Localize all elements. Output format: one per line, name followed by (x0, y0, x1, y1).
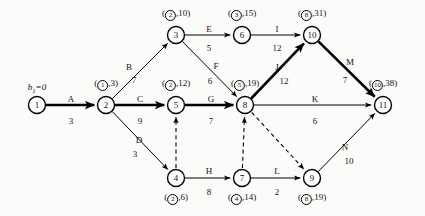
edge-label-C: C (137, 95, 143, 104)
node-tag-5: (2,12) (162, 79, 190, 91)
node-11[interactable]: 11 (375, 97, 392, 114)
node-number-5: 5 (174, 100, 179, 110)
edge-label-K: K (312, 95, 319, 104)
node-number-4: 4 (174, 173, 179, 183)
edge-label-J: J (275, 63, 279, 72)
edge-label-I: I (276, 25, 279, 34)
network-diagram-canvas: 1234567891011 b1=0 A3B7C9D3E5F6G7H8I12J1… (0, 0, 425, 216)
node-tag-9: (8,19) (298, 193, 326, 205)
node-tag-4: (2,6) (164, 193, 188, 205)
edge-label-E: E (206, 25, 212, 34)
network-graph-svg: 1234567891011 (0, 0, 425, 216)
edge-label-A: A (68, 95, 75, 104)
source-node-label: b1=0 (28, 83, 46, 94)
node-7[interactable]: 7 (234, 170, 251, 187)
node-tag-10: (8,31) (298, 9, 326, 21)
node-tag-11: (10,38) (369, 79, 397, 91)
dummy-edge-d78 (242, 117, 244, 168)
edge-label-H: H (206, 167, 213, 176)
node-tag-2: (1,3) (94, 79, 118, 91)
node-1[interactable]: 1 (29, 97, 46, 114)
node-9[interactable]: 9 (304, 170, 321, 187)
edge-weight-M: 7 (343, 76, 348, 85)
node-number-8: 8 (243, 100, 248, 110)
edge-weight-G: 7 (209, 117, 214, 126)
edge-label-M: M (346, 58, 354, 67)
node-number-9: 9 (310, 173, 315, 183)
node-number-2: 2 (104, 100, 109, 110)
edge-label-B: B (126, 63, 132, 72)
edge-label-N: N (342, 143, 349, 152)
node-number-7: 7 (240, 173, 245, 183)
node-number-11: 11 (379, 100, 388, 110)
edge-weight-J: 12 (280, 77, 289, 86)
node-3[interactable]: 3 (168, 27, 185, 44)
node-tag-7: (4,14) (228, 193, 256, 205)
node-tag-6: (3,15) (228, 9, 256, 21)
edge-weight-N: 10 (345, 157, 354, 166)
edge-weight-D: 3 (133, 150, 138, 159)
dummy-edge-d89 (252, 112, 304, 169)
edge-label-F: F (213, 62, 218, 71)
edge-label-G: G (208, 95, 215, 104)
node-number-6: 6 (240, 30, 245, 40)
edge-weight-K: 6 (313, 117, 318, 126)
edge-weight-F: 6 (208, 77, 213, 86)
edge-weight-B: 7 (132, 76, 137, 85)
node-10[interactable]: 10 (304, 27, 321, 44)
edge-B (112, 43, 167, 98)
node-8[interactable]: 8 (237, 97, 254, 114)
edge-weight-I: 12 (273, 44, 282, 53)
edge-weight-A: 3 (69, 117, 74, 126)
node-tag-8: (5,19) (231, 79, 259, 91)
node-4[interactable]: 4 (168, 170, 185, 187)
edge-weight-C: 9 (138, 117, 143, 126)
node-6[interactable]: 6 (234, 27, 251, 44)
edge-label-L: L (274, 167, 280, 176)
node-number-1: 1 (35, 100, 40, 110)
node-tag-3: (2,10) (162, 9, 190, 21)
edge-weight-E: 5 (207, 44, 212, 53)
node-5[interactable]: 5 (168, 97, 185, 114)
edge-label-D: D (136, 136, 143, 145)
node-2[interactable]: 2 (98, 97, 115, 114)
node-number-10: 10 (308, 30, 318, 40)
edge-weight-H: 8 (207, 188, 212, 197)
edge-weight-L: 2 (275, 188, 280, 197)
node-number-3: 3 (174, 30, 179, 40)
edge-M (318, 41, 374, 96)
